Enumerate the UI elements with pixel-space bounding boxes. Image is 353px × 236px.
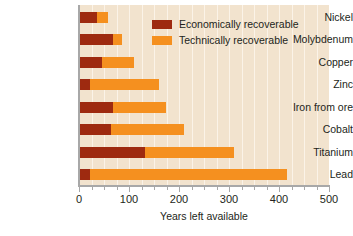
x-axis-tick-label: 400 bbox=[259, 193, 299, 205]
x-axis-major-tick bbox=[79, 187, 80, 192]
y-axis-label-titanium: Titanium bbox=[277, 147, 353, 158]
x-axis-tick-label: 500 bbox=[309, 193, 349, 205]
bar-segment-economically-recoverable bbox=[79, 102, 113, 113]
bar-segment-economically-recoverable bbox=[79, 169, 90, 180]
x-axis-minor-tick bbox=[117, 187, 118, 190]
x-axis-minor-tick bbox=[104, 187, 105, 190]
bar-segment-technically-recoverable bbox=[102, 57, 135, 68]
y-axis-label-copper: Copper bbox=[277, 57, 353, 68]
bar-segment-economically-recoverable bbox=[79, 57, 102, 68]
y-axis-line bbox=[78, 5, 80, 187]
orange-swatch bbox=[152, 36, 172, 45]
x-axis-minor-tick bbox=[154, 187, 155, 190]
x-axis-minor-tick bbox=[292, 187, 293, 190]
x-axis-title: Years left available bbox=[79, 210, 329, 222]
x-axis-major-tick bbox=[279, 187, 280, 192]
bar-segment-technically-recoverable bbox=[111, 124, 184, 135]
x-axis-tick-label: 100 bbox=[109, 193, 149, 205]
legend-item-technically-recoverable: Technically recoverable bbox=[152, 34, 299, 46]
x-axis-minor-tick bbox=[317, 187, 318, 190]
bar-segment-economically-recoverable bbox=[79, 124, 111, 135]
bar-segment-economically-recoverable bbox=[79, 34, 113, 45]
x-axis-minor-tick bbox=[254, 187, 255, 190]
y-axis-label-iron-from-ore: Iron from ore bbox=[277, 102, 353, 113]
y-axis-label-lead: Lead bbox=[277, 169, 353, 180]
x-axis-major-tick bbox=[229, 187, 230, 192]
x-axis-minor-tick bbox=[92, 187, 93, 190]
legend-item-economically-recoverable: Economically recoverable bbox=[152, 18, 299, 30]
x-axis-major-tick bbox=[129, 187, 130, 192]
x-axis-major-tick bbox=[329, 187, 330, 192]
x-axis-minor-tick bbox=[142, 187, 143, 190]
bar-segment-technically-recoverable bbox=[90, 169, 287, 180]
bar-segment-economically-recoverable bbox=[79, 79, 90, 90]
y-axis-label-cobalt: Cobalt bbox=[277, 124, 353, 135]
bar-chart: NickelMolybdenumCopperZincIron from oreC… bbox=[0, 0, 353, 236]
bar-segment-economically-recoverable bbox=[79, 147, 145, 158]
x-axis-major-tick bbox=[179, 187, 180, 192]
x-axis-minor-tick bbox=[242, 187, 243, 190]
bar-segment-technically-recoverable bbox=[145, 147, 234, 158]
bar-segment-technically-recoverable bbox=[97, 12, 108, 23]
bar-segment-technically-recoverable bbox=[113, 34, 122, 45]
x-axis-tick-label: 0 bbox=[59, 193, 99, 205]
bar-segment-technically-recoverable bbox=[113, 102, 166, 113]
dark-red-swatch bbox=[152, 20, 172, 29]
bar-segment-technically-recoverable bbox=[90, 79, 159, 90]
legend: Economically recoverable Technically rec… bbox=[152, 18, 299, 50]
x-axis-minor-tick bbox=[267, 187, 268, 190]
legend-label-technically-recoverable: Technically recoverable bbox=[179, 34, 288, 46]
x-axis-tick-label: 200 bbox=[159, 193, 199, 205]
x-axis-minor-tick bbox=[304, 187, 305, 190]
x-axis-minor-tick bbox=[192, 187, 193, 190]
x-axis-minor-tick bbox=[204, 187, 205, 190]
legend-label-economically-recoverable: Economically recoverable bbox=[179, 18, 299, 30]
bar-segment-economically-recoverable bbox=[79, 12, 97, 23]
x-axis-minor-tick bbox=[217, 187, 218, 190]
y-axis-label-zinc: Zinc bbox=[277, 79, 353, 90]
x-axis-tick-label: 300 bbox=[209, 193, 249, 205]
x-axis-minor-tick bbox=[167, 187, 168, 190]
